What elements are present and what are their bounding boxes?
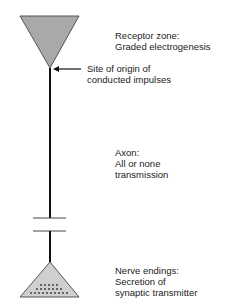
origin-site-line1: Site of origin of xyxy=(87,63,171,74)
axon-desc-line1: All or none xyxy=(115,158,168,169)
origin-arrow-icon xyxy=(53,66,81,72)
origin-site-line2: conducted impulses xyxy=(87,74,171,85)
receptor-zone-desc: Graded electrogenesis xyxy=(115,41,211,52)
nerve-endings-desc-line1: Secretion of xyxy=(115,276,197,287)
nerve-endings-desc-line2: synaptic transmitter xyxy=(115,287,197,298)
receptor-zone-title: Receptor zone: xyxy=(115,30,211,41)
nerve-endings-triangle xyxy=(20,262,79,297)
receptor-zone-label: Receptor zone: Graded electrogenesis xyxy=(115,30,211,52)
nerve-endings-title: Nerve endings: xyxy=(115,265,197,276)
axon-title: Axon: xyxy=(115,147,168,158)
axon-desc-line2: transmission xyxy=(115,169,168,180)
nerve-endings-label: Nerve endings: Secretion of synaptic tra… xyxy=(115,265,197,298)
axon-label: Axon: All or none transmission xyxy=(115,147,168,180)
receptor-zone-triangle xyxy=(20,16,79,68)
origin-site-label: Site of origin of conducted impulses xyxy=(87,63,171,85)
